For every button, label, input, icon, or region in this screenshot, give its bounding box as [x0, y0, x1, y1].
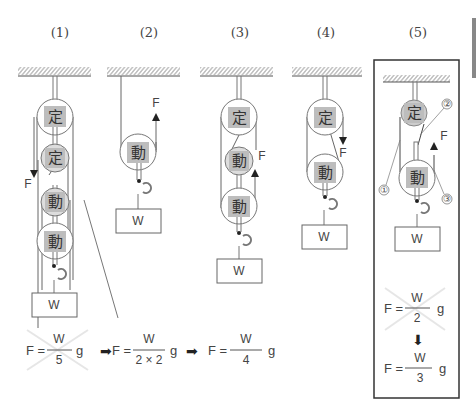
panel-label-3: (3)	[231, 25, 249, 40]
fixed-pulley-label: 定	[232, 109, 247, 127]
pointer-line	[84, 200, 118, 318]
svg-text:g: g	[76, 343, 83, 358]
svg-text:W: W	[48, 298, 60, 312]
panel-label-4: (4)	[317, 25, 335, 40]
svg-text:3: 3	[417, 371, 424, 385]
svg-text:W: W	[240, 332, 252, 346]
moving-pulley-label: 動	[410, 169, 425, 187]
marker-1: ①	[380, 185, 388, 195]
svg-text:2 × 2: 2 × 2	[135, 353, 162, 367]
force-label: F	[440, 129, 447, 143]
force-label: F	[339, 146, 346, 160]
moving-pulley-label: 動	[48, 233, 63, 251]
hook-icon	[421, 203, 429, 213]
equation-row: F = W 5 g ➡ F = W 2 × 2 g ➡ F = W 4 g	[26, 330, 275, 370]
arrow-right-icon: ➡	[186, 343, 198, 359]
svg-text:W: W	[414, 351, 426, 365]
equation-crossed: F = W 5 g	[26, 330, 88, 370]
equation-result: F = W 4 g	[208, 332, 275, 367]
force-arrow-up-icon	[430, 142, 438, 150]
moving-pulley-label: 動	[131, 144, 146, 162]
svg-text:4: 4	[243, 353, 250, 367]
svg-text:5: 5	[56, 353, 63, 367]
marker-3: ③	[443, 194, 451, 204]
panel-label-2: (2)	[140, 25, 158, 40]
panel-label-1: (1)	[51, 25, 69, 40]
svg-text:g: g	[268, 343, 275, 358]
fixed-pulley-label: 定	[407, 104, 422, 122]
panel-3: F 定 動 動 W	[200, 67, 273, 283]
fixed-pulley-label: 定	[48, 149, 63, 167]
force-label: F	[152, 96, 159, 110]
force-arrow-up-icon	[251, 169, 259, 177]
fixed-pulley-label: 定	[318, 109, 333, 127]
panel-2: F 動 W	[107, 67, 180, 233]
svg-text:W: W	[411, 232, 423, 246]
ceiling-hatch	[18, 67, 91, 75]
moving-pulley-label: 動	[232, 152, 247, 170]
panel-5: F 定 動 W ① ② ③ F = W 2 g	[374, 60, 459, 398]
arrow-right-icon: ➡	[100, 343, 112, 359]
marker-2: ②	[443, 99, 451, 109]
svg-text:F =: F =	[26, 343, 45, 358]
svg-text:F =: F =	[384, 361, 403, 376]
svg-text:W: W	[411, 291, 423, 305]
arrow-down-icon: ⬇	[412, 332, 424, 348]
svg-text:F =: F =	[208, 343, 227, 358]
fixed-pulley-label: 定	[48, 108, 63, 126]
moving-pulley-label: 動	[232, 198, 247, 216]
panel-label-5: (5)	[409, 25, 427, 40]
svg-text:g: g	[437, 301, 444, 316]
box-equation-crossed: F = W 2 g	[384, 288, 445, 330]
hook-icon	[329, 199, 337, 209]
svg-text:g: g	[439, 361, 446, 376]
hook-icon	[143, 183, 151, 193]
svg-text:F =: F =	[112, 343, 131, 358]
svg-text:F =: F =	[384, 301, 403, 316]
svg-text:W: W	[233, 264, 245, 278]
panel-1: 定 定 動 動 W F	[18, 67, 91, 328]
edge-bar	[472, 18, 476, 78]
box-equation-result: F = W 3 g	[384, 351, 446, 385]
panel-4: F 定 動 W	[292, 67, 362, 249]
svg-text:W: W	[53, 332, 65, 346]
force-arrow-up-icon	[152, 113, 160, 121]
force-label: F	[24, 177, 31, 191]
equation-intermediate: F = W 2 × 2 g	[112, 332, 177, 367]
svg-text:2: 2	[414, 311, 421, 325]
svg-text:g: g	[170, 343, 177, 358]
hook-icon	[243, 235, 251, 245]
svg-text:W: W	[132, 214, 144, 228]
moving-pulley-label: 動	[318, 164, 333, 182]
hook-icon	[58, 269, 66, 279]
force-label: F	[258, 149, 265, 163]
force-arrow-down-icon	[339, 137, 347, 145]
pulley-diagram: (1) (2) (3) (4) (5) 定 定 動	[0, 0, 476, 417]
svg-text:W: W	[143, 332, 155, 346]
moving-pulley-label: 動	[48, 193, 63, 211]
svg-text:W: W	[318, 230, 330, 244]
